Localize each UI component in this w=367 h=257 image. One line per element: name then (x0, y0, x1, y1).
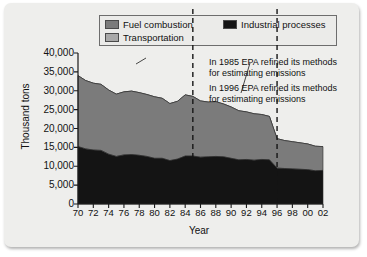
legend-item-transportation: Transportation (105, 31, 184, 44)
y-tick-label: 5,000 (28, 180, 74, 190)
annotation-1996: In 1996 EPA refined its methods for esti… (209, 83, 337, 104)
y-tick-label: 20,000 (28, 124, 74, 134)
annotation-1985: In 1985 EPA refined its methods for esti… (209, 57, 337, 78)
y-tick-label: 40,000 (28, 48, 74, 58)
y-tick-label: 10,000 (28, 161, 74, 171)
y-tick-label: 15,000 (28, 142, 74, 152)
legend-item-industrial-processes: Industrial processes (223, 18, 325, 31)
y-tick-label: 30,000 (28, 86, 74, 96)
legend-swatch-transportation (105, 33, 119, 42)
y-tick-label: 35,000 (28, 67, 74, 77)
annotation-1996-line1: In 1996 EPA refined its methods (209, 83, 337, 94)
legend-swatch-industrial-processes (223, 20, 237, 29)
legend-label-industrial-processes: Industrial processes (241, 19, 325, 30)
y-axis-tick-labels: 05,00010,00015,00020,00025,00030,00035,0… (20, 3, 74, 247)
chart-figure: Fuel combustion Transportation Industria… (4, 3, 359, 247)
x-tick-label: 02 (313, 207, 333, 218)
annotation-1985-line2: for estimating emissions (209, 68, 337, 79)
leader-line-1985 (136, 58, 146, 64)
y-tick-label: 25,000 (28, 105, 74, 115)
legend-label-transportation: Transportation (123, 32, 184, 43)
legend-item-fuel-combustion: Fuel combustion (105, 18, 193, 31)
x-axis-title: Year (64, 225, 334, 236)
annotation-1985-line1: In 1985 EPA refined its methods (209, 57, 337, 68)
annotation-1996-line2: for estimating emissions (209, 94, 337, 105)
x-axis-tick-labels: 7072747678808284868890929496980002 (78, 207, 323, 221)
chart-legend: Fuel combustion Transportation Industria… (99, 15, 337, 46)
legend-label-fuel-combustion: Fuel combustion (123, 19, 193, 30)
legend-swatch-fuel-combustion (105, 20, 119, 29)
